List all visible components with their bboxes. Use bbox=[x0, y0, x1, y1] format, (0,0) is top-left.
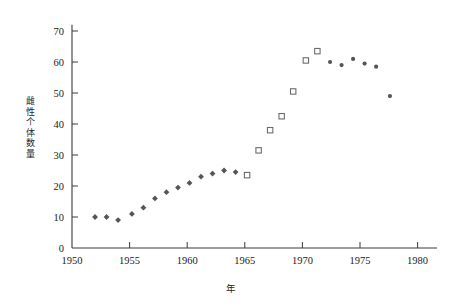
x-tick-label: 1970 bbox=[292, 255, 313, 266]
y-tick-label: 40 bbox=[54, 119, 65, 130]
y-tick-label: 0 bbox=[59, 243, 64, 254]
y-tick-label: 30 bbox=[54, 150, 65, 161]
data-point-open-square bbox=[244, 172, 249, 177]
data-point-open-square bbox=[290, 89, 295, 94]
data-point-filled-dot bbox=[388, 94, 392, 98]
y-tick-label: 10 bbox=[54, 212, 65, 223]
data-point-filled-diamond bbox=[187, 180, 193, 186]
data-point-filled-diamond bbox=[221, 168, 227, 174]
data-point-filled-dot bbox=[351, 57, 355, 61]
y-tick-label: 50 bbox=[54, 88, 65, 99]
tick-labels: 0102030405060701950195519601965197019751… bbox=[54, 26, 429, 266]
data-point-open-square bbox=[267, 128, 272, 133]
data-point-filled-diamond bbox=[129, 211, 135, 217]
data-point-filled-diamond bbox=[233, 169, 239, 175]
chart-canvas: 0102030405060701950195519601965197019751… bbox=[0, 0, 461, 306]
x-tick-label: 1950 bbox=[62, 255, 83, 266]
data-point-filled-dot bbox=[363, 61, 367, 65]
data-point-filled-diamond bbox=[115, 217, 121, 223]
data-point-filled-diamond bbox=[92, 214, 98, 220]
data-points bbox=[92, 48, 392, 223]
y-tick-label: 20 bbox=[54, 181, 65, 192]
scatter-chart: 0102030405060701950195519601965197019751… bbox=[0, 0, 461, 306]
data-point-filled-diamond bbox=[164, 189, 170, 195]
x-tick-label: 1975 bbox=[350, 255, 371, 266]
data-point-filled-dot bbox=[339, 63, 343, 67]
data-point-filled-diamond bbox=[141, 205, 147, 211]
data-point-filled-diamond bbox=[210, 171, 216, 177]
data-point-filled-diamond bbox=[104, 214, 110, 220]
axes bbox=[72, 25, 437, 248]
data-point-filled-dot bbox=[374, 65, 378, 69]
data-point-open-square bbox=[303, 58, 308, 63]
x-tick-label: 1965 bbox=[234, 255, 255, 266]
data-point-filled-diamond bbox=[175, 185, 181, 191]
x-tick-label: 1980 bbox=[407, 255, 428, 266]
x-tick-label: 1960 bbox=[177, 255, 198, 266]
data-point-filled-diamond bbox=[198, 174, 204, 180]
data-point-open-square bbox=[256, 148, 261, 153]
y-tick-label: 60 bbox=[54, 57, 65, 68]
x-tick-label: 1955 bbox=[119, 255, 140, 266]
data-point-open-square bbox=[315, 48, 320, 53]
data-point-open-square bbox=[279, 114, 284, 119]
x-axis-title: 年 bbox=[0, 281, 461, 295]
y-axis-title: 雌性个体数量 bbox=[22, 96, 38, 159]
y-tick-label: 70 bbox=[54, 26, 65, 37]
data-point-filled-dot bbox=[328, 60, 332, 64]
data-point-filled-diamond bbox=[152, 196, 158, 202]
